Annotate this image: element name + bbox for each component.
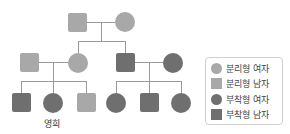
legend-item-attached-male: 부착형 남자 <box>211 107 269 121</box>
circle-icon <box>211 63 222 74</box>
gen3-female-attached-2 <box>171 93 191 113</box>
legend: 분리형 여자 분리형 남자 부착형 여자 부착형 남자 <box>205 57 283 125</box>
gen3-female-younghee <box>43 93 63 113</box>
gen2-female-separation <box>68 53 88 73</box>
gen3-drop-3 <box>86 81 87 93</box>
gen3-left-sibling-line <box>21 81 87 82</box>
gen3-female-attached-1 <box>106 93 126 113</box>
gen1-male-separation <box>68 13 87 32</box>
gen1-descent-line <box>101 22 102 41</box>
legend-label: 분리형 남자 <box>226 77 269 90</box>
younghee-label: 영희 <box>44 117 60 130</box>
gen2-left-drop <box>78 41 79 53</box>
gen3-male-separation <box>77 93 96 112</box>
gen3-drop-1 <box>21 81 22 93</box>
gen3-male-attached-2 <box>140 93 159 112</box>
legend-item-attached-female: 부착형 여자 <box>211 92 269 106</box>
gen3-drop-6 <box>181 81 182 93</box>
gen1-female-separation <box>115 12 135 32</box>
gen2-right-drop <box>125 41 126 53</box>
gen1-sibling-line <box>78 41 126 42</box>
legend-label: 부착형 남자 <box>226 108 269 121</box>
legend-item-separation-female: 분리형 여자 <box>211 61 269 75</box>
gen3-drop-4 <box>116 81 117 93</box>
circle-icon <box>211 94 222 105</box>
square-icon <box>211 109 222 120</box>
gen2-male-separation <box>20 53 39 72</box>
gen3-drop-2 <box>53 81 54 93</box>
legend-label: 부착형 여자 <box>226 93 269 106</box>
gen2-left-descent-line <box>53 62 54 81</box>
legend-item-separation-male: 분리형 남자 <box>211 76 269 90</box>
gen2-male-attached <box>116 53 135 72</box>
square-icon <box>211 78 222 89</box>
gen2-female-attached <box>163 53 183 73</box>
gen3-drop-5 <box>149 81 150 93</box>
legend-label: 분리형 여자 <box>226 62 269 75</box>
gen2-right-descent-line <box>149 62 150 81</box>
gen3-male-attached-1 <box>12 93 31 112</box>
